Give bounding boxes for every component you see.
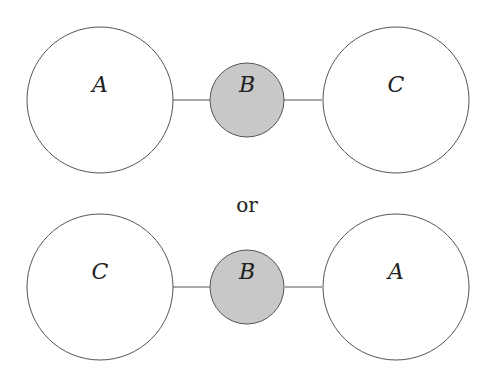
- label-right: C: [388, 72, 405, 97]
- large-circle-left: [27, 214, 173, 360]
- label-left: A: [90, 72, 108, 97]
- label-left: C: [92, 259, 109, 284]
- large-circle-left: [27, 27, 173, 173]
- separator-text: or: [236, 193, 258, 217]
- large-circle-right: [323, 27, 469, 173]
- large-circle-right: [323, 214, 469, 360]
- label-middle: B: [238, 72, 255, 97]
- label-middle: B: [238, 259, 255, 284]
- label-right: A: [386, 259, 404, 284]
- bottom-configuration: C B A: [27, 214, 469, 360]
- top-configuration: A B C: [27, 27, 469, 173]
- diagram-canvas: A B C or C B A: [0, 0, 493, 380]
